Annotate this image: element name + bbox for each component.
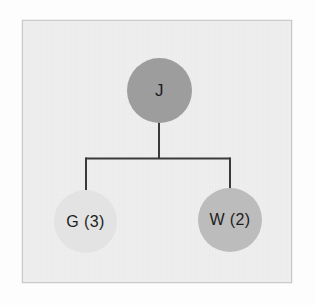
tree-node-j[interactable]: J bbox=[127, 58, 192, 123]
tree-node-w-label: W (2) bbox=[209, 212, 250, 228]
tree-node-g[interactable]: G (3) bbox=[54, 190, 117, 253]
tree-node-j-label: J bbox=[155, 82, 164, 99]
diagram-canvas: J G (3) W (2) bbox=[0, 0, 315, 305]
edge-connectors bbox=[0, 0, 315, 305]
tree-node-g-label: G (3) bbox=[66, 214, 104, 230]
tree-node-w[interactable]: W (2) bbox=[198, 188, 262, 252]
